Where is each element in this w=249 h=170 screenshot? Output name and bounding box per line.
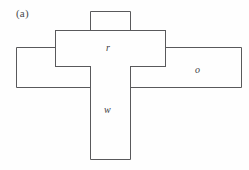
figure-panel-a: (a) r o w bbox=[0, 0, 249, 170]
region-label-w: w bbox=[104, 105, 111, 115]
panel-label: (a) bbox=[16, 8, 29, 19]
top-stub-outline bbox=[91, 12, 131, 31]
region-label-r: r bbox=[106, 43, 110, 53]
figure-diagram bbox=[0, 0, 249, 170]
o-bar-outline bbox=[131, 48, 242, 88]
left-bar-outline bbox=[17, 48, 91, 88]
region-label-o: o bbox=[195, 65, 200, 75]
w-bar-outline-lower bbox=[91, 88, 131, 160]
